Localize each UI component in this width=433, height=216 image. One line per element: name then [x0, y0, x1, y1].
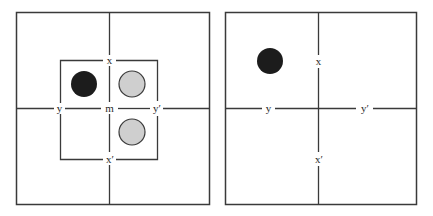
left-panel: x x′ y y′ m: [16, 12, 210, 205]
right-label-x: x: [316, 55, 322, 67]
left-label-x: x: [107, 54, 113, 66]
gray-disk-lower: [119, 119, 145, 145]
diagram-canvas: x x′ y y′ m x x′ y y′: [0, 0, 433, 216]
black-disk: [71, 71, 97, 97]
left-label-x-prime: x′: [106, 153, 114, 165]
left-label-m: m: [105, 102, 114, 114]
left-label-y: y: [57, 102, 63, 114]
gray-disk-upper: [119, 71, 145, 97]
right-label-x-prime: x′: [315, 153, 323, 165]
right-panel: x x′ y y′: [225, 12, 417, 205]
left-label-y-prime: y′: [153, 102, 161, 114]
right-label-y: y: [266, 102, 272, 114]
black-disk: [257, 48, 283, 74]
right-label-y-prime: y′: [361, 102, 369, 114]
